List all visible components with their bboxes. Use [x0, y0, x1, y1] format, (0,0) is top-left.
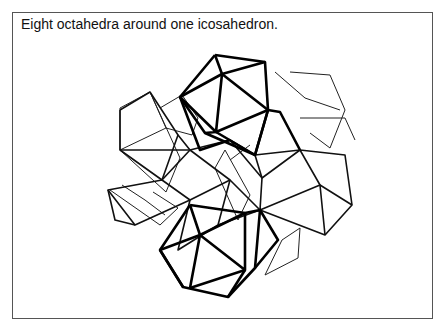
polyhedra-drawing	[0, 0, 440, 329]
back-octahedra	[110, 72, 355, 275]
side-octahedra	[108, 92, 352, 250]
icosahedron-top	[180, 55, 300, 155]
